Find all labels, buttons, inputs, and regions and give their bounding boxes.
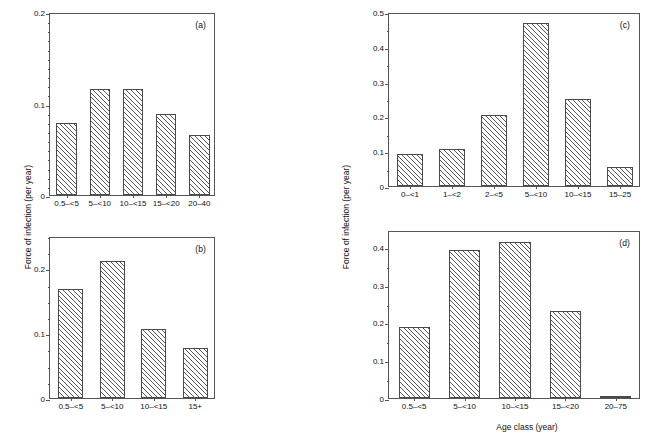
bar: [397, 154, 423, 186]
x-tick-label: 20–75: [605, 403, 627, 411]
x-tick: [414, 398, 415, 401]
plot-area-a: (a) 0.5–<55–<1010–<1515–<2020–4000.10.2: [49, 13, 215, 196]
y-tick-major: [385, 118, 389, 119]
y-tick-minor: [48, 41, 51, 42]
bar-series-a: [50, 14, 214, 195]
y-tick-label: 0.3: [373, 283, 384, 291]
y-tick-major: [46, 400, 50, 401]
bar: [90, 89, 111, 195]
bar: [449, 250, 480, 398]
y-tick-minor: [48, 287, 51, 288]
y-tick-minor: [48, 78, 51, 79]
y-tick-minor: [48, 60, 51, 61]
x-tick: [112, 398, 113, 401]
bar-series-d: [389, 232, 639, 398]
x-tick-label: 10–<15: [502, 403, 529, 411]
bar: [58, 289, 83, 398]
y-tick-minor: [48, 69, 51, 70]
x-tick-label: 10–<15: [565, 191, 592, 199]
x-tick-label: 1–<2: [443, 191, 461, 199]
x-tick: [166, 195, 167, 198]
y-tick-minor: [48, 188, 51, 189]
y-tick-minor: [48, 319, 51, 320]
x-tick-label: 0.5–<5: [54, 200, 79, 208]
x-tick-label: 0.5–<5: [402, 403, 427, 411]
x-tick: [100, 195, 101, 198]
bar: [141, 329, 166, 398]
y-tick-label: 0.1: [373, 149, 384, 157]
y-tick-major: [385, 287, 389, 288]
x-tick-label: 10–<15: [140, 403, 167, 411]
y-tick-label: 0.3: [373, 80, 384, 88]
figure-panel-grid: Force of infection (per year) Force of i…: [0, 0, 650, 439]
y-tick-minor: [48, 368, 51, 369]
x-tick-label: 5–<10: [525, 191, 547, 199]
y-tick-minor: [48, 142, 51, 143]
plot-area-d: (d) 0.5–<55–<1010–<1515–<2020–7500.10.20…: [388, 231, 640, 399]
y-tick-minor: [387, 268, 390, 269]
y-tick-label: 0.2: [34, 266, 45, 274]
y-tick-minor: [48, 384, 51, 385]
y-tick-minor: [48, 351, 51, 352]
y-tick-minor: [48, 133, 51, 134]
x-tick: [199, 195, 200, 198]
y-tick-minor: [48, 151, 51, 152]
y-tick-label: 0: [41, 396, 45, 404]
y-tick-label: 0.4: [373, 45, 384, 53]
y-tick-label: 0.5: [373, 10, 384, 18]
x-tick: [616, 398, 617, 401]
bar: [481, 115, 507, 186]
y-tick-minor: [387, 381, 390, 382]
plot-area-c: (c) 0–<11–<22–<55–<1010–<1515–2500.10.20…: [388, 13, 640, 187]
x-tick: [410, 186, 411, 189]
y-tick-minor: [387, 343, 390, 344]
x-tick-label: 0–<1: [401, 191, 419, 199]
y-tick-label: 0.1: [373, 358, 384, 366]
x-tick-label: 15–<20: [153, 200, 180, 208]
y-tick-label: 0.2: [34, 10, 45, 18]
x-tick: [565, 398, 566, 401]
x-tick-label: 5–<10: [453, 403, 475, 411]
bar: [123, 89, 144, 195]
x-tick: [465, 398, 466, 401]
y-tick-minor: [387, 66, 390, 67]
bar: [523, 23, 549, 186]
x-tick: [620, 186, 621, 189]
y-tick-major: [385, 324, 389, 325]
y-tick-label: 0.2: [373, 114, 384, 122]
x-tick-label: 2–<5: [485, 191, 503, 199]
y-tick-minor: [48, 87, 51, 88]
bar: [607, 167, 633, 186]
bar: [439, 149, 465, 186]
y-tick-minor: [48, 254, 51, 255]
y-tick-minor: [387, 306, 390, 307]
y-tick-major: [385, 84, 389, 85]
y-tick-major: [46, 335, 50, 336]
x-tick: [515, 398, 516, 401]
y-tick-label: 0.2: [373, 320, 384, 328]
y-tick-major: [385, 400, 389, 401]
bar: [189, 135, 210, 195]
y-tick-minor: [387, 136, 390, 137]
bar: [100, 261, 125, 398]
x-tick-label: 5–<10: [101, 403, 123, 411]
x-tick: [494, 186, 495, 189]
x-axis-title: Age class (year): [496, 422, 557, 432]
x-tick: [133, 195, 134, 198]
bar: [399, 327, 430, 398]
y-tick-minor: [48, 124, 51, 125]
x-tick-label: 15–25: [609, 191, 631, 199]
x-tick: [195, 398, 196, 401]
y-tick-label: 0.4: [373, 245, 384, 253]
bar-series-b: [50, 238, 214, 398]
bar: [56, 123, 77, 195]
y-tick-label: 0: [41, 193, 45, 201]
y-tick-label: 0: [380, 396, 384, 404]
x-tick: [578, 186, 579, 189]
y-axis-title-left: Force of infection (per year): [23, 137, 33, 297]
y-tick-minor: [48, 170, 51, 171]
y-tick-minor: [48, 23, 51, 24]
y-tick-minor: [48, 115, 51, 116]
bar: [183, 348, 208, 398]
x-tick: [452, 186, 453, 189]
